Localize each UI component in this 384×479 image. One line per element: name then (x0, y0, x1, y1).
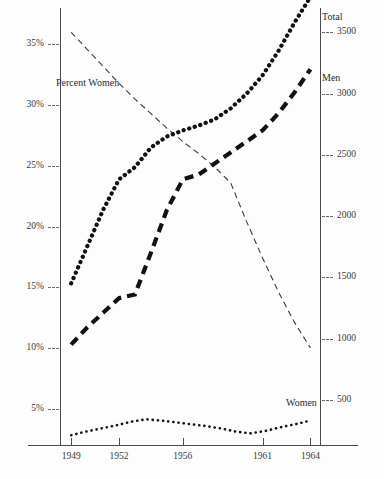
series-label-women: Women (286, 398, 317, 408)
series-line-women (71, 419, 310, 435)
chart-figure: 5%10%15%20%25%30%35% 5001000150020002500… (0, 0, 384, 479)
series-label-men: Men (322, 73, 340, 83)
series-label-total: Total (322, 12, 342, 22)
series-label-percent-women: Percent Women (56, 78, 119, 88)
series-line-men (71, 69, 310, 344)
series-line-total (71, 0, 310, 283)
